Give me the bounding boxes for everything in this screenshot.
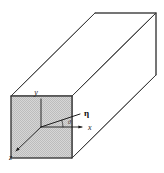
waveguide-figure: y x z η ϑ — [0, 0, 164, 173]
waveguide-diagram-svg: y x z η ϑ — [0, 0, 164, 173]
angle-label: ϑ — [68, 119, 71, 125]
eta-axis-label: η — [84, 108, 89, 118]
prism-body — [11, 13, 156, 158]
x-axis-label: x — [87, 123, 92, 132]
y-axis-label: y — [33, 88, 38, 97]
